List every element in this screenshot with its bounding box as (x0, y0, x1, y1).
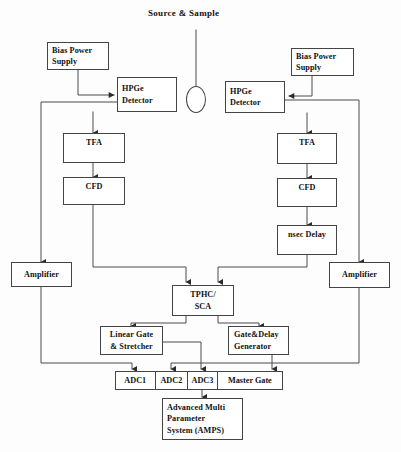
hpge-detector-right: HPGe Detector (225, 81, 285, 113)
gate-delay-line2: Generator (234, 341, 288, 352)
line-nsec-delay-to-tphc (218, 255, 307, 282)
master-gate-cell[interactable]: Master Gate (218, 372, 282, 389)
cfd-left-label: CFD (64, 178, 124, 192)
block-diagram-canvas: Source & Sample Bias Power Supply Bias P… (0, 0, 401, 452)
nsec-delay-label: nsec Delay (278, 226, 336, 240)
tphc-sca-line1: TPHC/ (190, 289, 216, 300)
adc1-cell[interactable]: ADC1 (116, 372, 156, 389)
sample-ellipse (186, 86, 206, 113)
tfa-left: TFA (63, 133, 125, 163)
line-bias-left-to-hpge-left (78, 70, 114, 95)
hpge-detector-right-line2: Detector (230, 97, 284, 108)
cfd-left: CFD (63, 177, 125, 205)
linear-gate-line2: & Stretcher (110, 341, 153, 352)
cfd-right: CFD (277, 178, 337, 207)
amps-line2: Parameter (167, 413, 242, 424)
line-tphc-to-gate-delay (218, 316, 259, 326)
line-bias-right-to-hpge-right (289, 76, 312, 96)
linear-gate-line1: Linear Gate (110, 329, 153, 340)
adc-strip: ADC1 ADC2 ADC3 Master Gate (115, 371, 283, 390)
tfa-right: TFA (277, 133, 337, 164)
amplifier-right-label: Amplifier (342, 269, 377, 280)
amps-line3: System (AMPS) (167, 425, 242, 436)
advanced-multi-parameter-system: Advanced Multi Parameter System (AMPS) (162, 398, 243, 440)
amps-line1: Advanced Multi (167, 402, 242, 413)
amplifier-right: Amplifier (329, 262, 390, 288)
tfa-right-label: TFA (278, 134, 336, 148)
amplifier-left: Amplifier (11, 262, 72, 287)
hpge-detector-left-line1: HPGe (122, 83, 176, 94)
linear-gate-and-stretcher: Linear Gate & Stretcher (100, 326, 163, 355)
adc2-cell[interactable]: ADC2 (156, 372, 189, 389)
gate-delay-line1: Gate&Delay (234, 329, 288, 340)
bias-power-supply-right-line1: Bias Power (296, 51, 353, 62)
nsec-delay: nsec Delay (277, 225, 337, 255)
bias-power-supply-left-line2: Supply (52, 56, 108, 67)
line-tphc-to-linear-gate (131, 316, 186, 326)
bias-power-supply-left-line1: Bias Power (52, 45, 108, 56)
line-cfd-left-to-tphc (93, 205, 186, 282)
amplifier-left-label: Amplifier (24, 269, 59, 280)
gate-and-delay-generator: Gate&Delay Generator (228, 326, 289, 355)
hpge-detector-left-line2: Detector (122, 95, 176, 106)
hpge-detector-left: HPGe Detector (117, 77, 177, 112)
tphc-sca-line2: SCA (190, 301, 216, 312)
tphc-sca: TPHC/ SCA (172, 285, 234, 316)
cfd-right-label: CFD (278, 179, 336, 193)
bias-power-supply-right-line2: Supply (296, 62, 353, 73)
source-and-sample-label: Source & Sample (148, 8, 219, 18)
tfa-left-label: TFA (64, 134, 124, 148)
line-linear-gate-to-adc3 (163, 342, 201, 369)
bias-power-supply-left: Bias Power Supply (47, 42, 109, 70)
hpge-detector-right-line1: HPGe (230, 86, 284, 97)
adc3-cell[interactable]: ADC3 (188, 372, 218, 389)
bias-power-supply-right: Bias Power Supply (291, 48, 354, 76)
